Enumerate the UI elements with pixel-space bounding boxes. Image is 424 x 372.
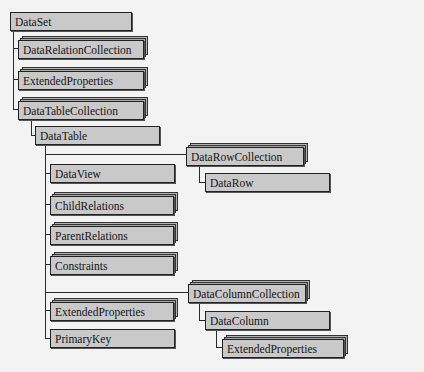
connector xyxy=(45,292,189,293)
node-label: DataSet xyxy=(15,16,51,28)
node-label: DataRowCollection xyxy=(191,151,282,163)
node-data-row: DataRow xyxy=(205,173,330,192)
node-data-column-collection: DataColumnCollection xyxy=(188,284,306,303)
node-label: ChildRelations xyxy=(55,200,124,212)
node-label: DataRow xyxy=(210,177,253,189)
node-label: DataTable xyxy=(40,130,87,142)
node-label: ExtendedProperties xyxy=(227,343,317,355)
node-label: ExtendedProperties xyxy=(55,306,145,318)
node-label: DataRelationCollection xyxy=(23,44,132,56)
node-label: ExtendedProperties xyxy=(23,75,113,87)
node-data-column: DataColumn xyxy=(205,311,330,330)
node-label: PrimaryKey xyxy=(55,333,111,345)
connector xyxy=(216,331,217,348)
node-data-row-collection: DataRowCollection xyxy=(186,147,304,166)
node-data-table: DataTable xyxy=(35,126,160,145)
node-parent-relations: ParentRelations xyxy=(50,226,174,245)
connector xyxy=(199,166,200,183)
node-dataset: DataSet xyxy=(10,12,132,31)
node-data-table-collection: DataTableCollection xyxy=(18,101,144,120)
node-data-view: DataView xyxy=(50,164,175,183)
connector xyxy=(13,30,14,110)
node-table-extended-properties: ExtendedProperties xyxy=(50,302,174,321)
connector xyxy=(45,154,187,155)
node-dataset-extended-properties: ExtendedProperties xyxy=(18,71,144,90)
node-label: Constraints xyxy=(55,260,107,272)
node-constraints: Constraints xyxy=(50,256,174,275)
node-label: DataTableCollection xyxy=(23,105,118,117)
node-primary-key: PrimaryKey xyxy=(50,329,175,348)
node-column-extended-properties: ExtendedProperties xyxy=(222,339,344,358)
connector xyxy=(199,303,200,321)
node-label: DataColumnCollection xyxy=(193,288,300,300)
dataset-object-model-diagram: DataSet DataRelationCollection ExtendedP… xyxy=(0,0,424,372)
node-label: DataColumn xyxy=(210,315,269,327)
node-label: ParentRelations xyxy=(55,230,128,242)
connector xyxy=(31,120,32,136)
node-data-relation-collection: DataRelationCollection xyxy=(18,40,144,59)
node-label: DataView xyxy=(55,168,101,180)
node-child-relations: ChildRelations xyxy=(50,196,174,215)
